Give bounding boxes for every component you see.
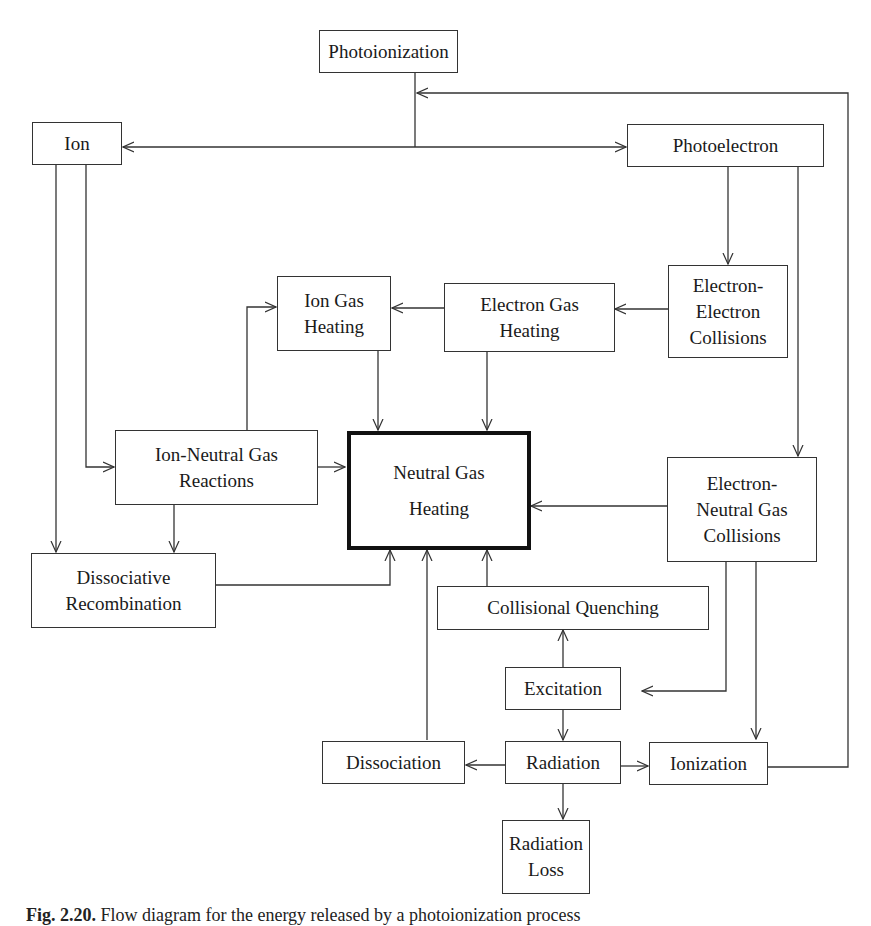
node-photoelectron: Photoelectron	[627, 124, 824, 167]
figure-caption-label: Fig. 2.20.	[26, 905, 96, 925]
node-ion-gas-heating: Ion Gas Heating	[277, 276, 391, 351]
node-dissociation: Dissociation	[322, 741, 465, 784]
node-radiation-loss: Radiation Loss	[502, 820, 590, 894]
node-radiation: Radiation	[505, 741, 621, 784]
node-electron-neutral-gas-collisions: Electron- Neutral Gas Collisions	[667, 457, 817, 562]
node-electron-gas-heating: Electron Gas Heating	[444, 283, 615, 352]
node-ionization: Ionization	[649, 742, 768, 785]
figure-caption: Fig. 2.20. Flow diagram for the energy r…	[26, 905, 581, 926]
node-dissociative-recombination: Dissociative Recombination	[31, 553, 216, 628]
edge-ionization-to-photoionization	[417, 93, 848, 767]
edge-ion-to-ion-neutral-reactions	[86, 165, 114, 467]
node-electron-electron-collisions: Electron- Electron Collisions	[668, 265, 788, 358]
node-collisional-quenching: Collisional Quenching	[437, 586, 709, 630]
node-ion-neutral-gas-reactions: Ion-Neutral Gas Reactions	[115, 430, 318, 505]
figure-caption-text: Flow diagram for the energy released by …	[101, 905, 581, 925]
node-excitation: Excitation	[505, 667, 621, 710]
edge-ion-neutral-to-ion-gas-heating	[247, 307, 276, 430]
node-photoionization: Photoionization	[319, 30, 458, 73]
edge-dissociative-recombination-to-neutral-gas-heating	[216, 550, 390, 585]
node-neutral-gas-heating: Neutral Gas Heating	[347, 431, 531, 550]
node-ion: Ion	[32, 122, 122, 165]
